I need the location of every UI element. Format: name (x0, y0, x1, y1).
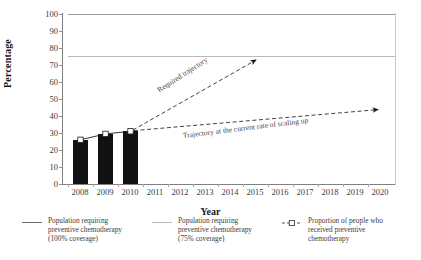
legend-item-proportion-received: Proportion of people who received preven… (282, 216, 410, 244)
x-tick-mark (268, 184, 269, 187)
x-tick-label: 2020 (363, 188, 397, 197)
x-tick-mark (218, 184, 219, 187)
x-tick-mark (93, 184, 94, 187)
legend-line-3: (100% coverage) (48, 234, 150, 243)
x-tick-mark (243, 184, 244, 187)
solid-line-icon (152, 219, 172, 227)
x-tick-mark (343, 184, 344, 187)
legend-line-3: (75% coverage) (178, 234, 280, 243)
x-tick-mark (318, 184, 319, 187)
legend-line-2: received preventive (308, 225, 410, 234)
legend-line-2: preventive chemotherapy (48, 225, 150, 234)
solid-line-icon (22, 219, 42, 227)
x-tick-mark (293, 184, 294, 187)
legend-label-proportion-received: Proportion of people who received preven… (308, 216, 410, 244)
legend-line-3: chemotherapy (308, 234, 410, 243)
x-tick-mark (143, 184, 144, 187)
x-tick-mark (168, 184, 169, 187)
legend-line-1: Population requiring (178, 216, 280, 225)
legend-line-2: preventive chemotherapy (178, 225, 280, 234)
legend-label-population-100: Population requiring preventive chemothe… (48, 216, 150, 244)
chart-legend: Population requiring preventive chemothe… (0, 216, 421, 260)
data-marker-2010 (128, 129, 133, 134)
x-tick-mark (368, 184, 369, 187)
x-tick-mark (68, 184, 69, 187)
chart-figure: Percentage 100 90 80 70 60 50 40 30 20 1… (0, 0, 421, 260)
x-tick-mark (118, 184, 119, 187)
x-tick-mark (193, 184, 194, 187)
data-marker-2009 (103, 131, 108, 136)
dashed-line-marker-icon (282, 219, 302, 227)
legend-line-1: Population requiring (48, 216, 150, 225)
data-marker-2008 (78, 137, 83, 142)
legend-item-population-100: Population requiring preventive chemothe… (22, 216, 150, 244)
legend-label-population-75: Population requiring preventive chemothe… (178, 216, 280, 244)
legend-line-1: Proportion of people who (308, 216, 410, 225)
legend-item-population-75: Population requiring preventive chemothe… (152, 216, 280, 244)
